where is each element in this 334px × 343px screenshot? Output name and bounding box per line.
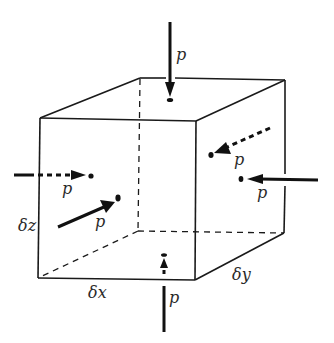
force-point-bottom <box>161 253 167 257</box>
hidden-edge-bottom-back <box>138 231 284 233</box>
force-back-y: p <box>208 128 270 169</box>
front-edge-top <box>40 118 196 121</box>
force-label-right: p <box>257 183 267 202</box>
force-back-dashed-shaft <box>225 128 270 148</box>
force-point-back <box>208 152 213 158</box>
force-front-y: p <box>58 195 121 231</box>
force-label-front: p <box>95 212 105 231</box>
top-edge-right <box>196 80 285 121</box>
hidden-edge-bottom-left <box>38 231 138 278</box>
right-edge-back-lower <box>284 186 285 233</box>
force-label-back: p <box>234 150 244 169</box>
force-right-shaft <box>260 179 318 180</box>
arrowhead-up-icon <box>160 258 168 268</box>
arrowhead-down-icon <box>165 82 175 97</box>
force-bottom: p <box>160 253 179 332</box>
front-edge-bottom <box>38 278 195 280</box>
force-point-top <box>167 98 173 102</box>
force-label-left: p <box>62 179 72 198</box>
fluid-element-diagram: p p p p p p δz δx δy <box>0 0 334 343</box>
dimension-label-x: δx <box>88 283 107 302</box>
force-top: p <box>165 22 186 102</box>
top-edge-back-right <box>175 78 285 80</box>
force-point-right <box>239 176 244 182</box>
front-edge-left <box>38 118 40 278</box>
arrowhead-right-icon <box>71 170 86 180</box>
dimension-label-y: δy <box>232 265 252 284</box>
force-right-x: p <box>239 174 318 202</box>
hidden-edge-vertical <box>138 79 140 231</box>
force-left-x: p <box>14 170 94 198</box>
force-point-front <box>115 195 120 202</box>
force-label-bottom: p <box>169 288 179 307</box>
force-point-left <box>88 173 93 178</box>
force-label-top: p <box>176 45 186 64</box>
front-edge-right <box>195 121 196 280</box>
dimension-label-z: δz <box>18 216 37 235</box>
top-edge-left <box>40 78 140 118</box>
arrowhead-diagonal-left-icon <box>214 142 231 154</box>
